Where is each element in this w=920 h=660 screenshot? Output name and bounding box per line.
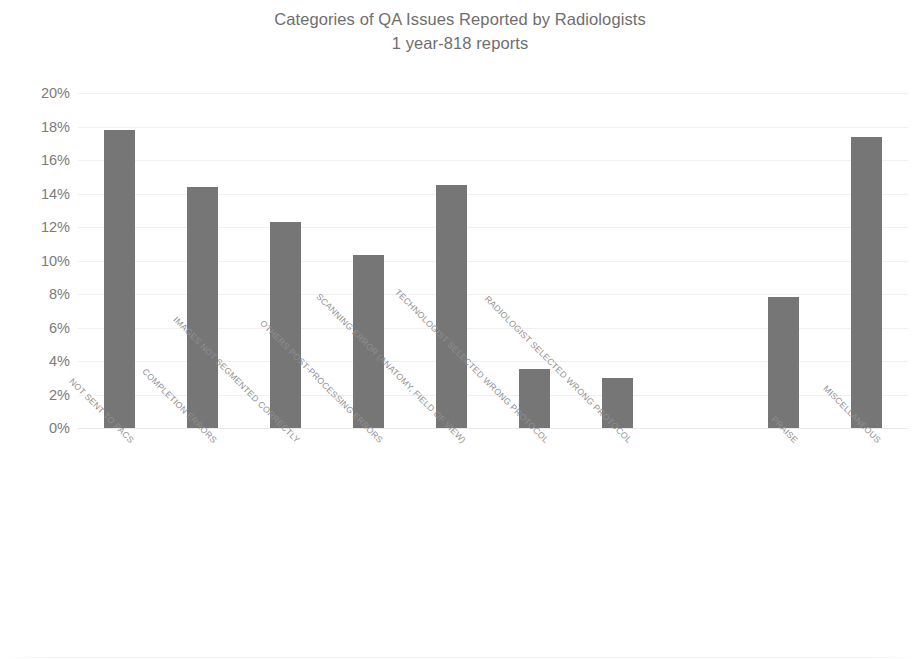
y-axis-tick-label: 6% [24,320,70,336]
y-axis-tick-labels: 20%18%16%14%12%10%8%6%4%2%0% [20,93,70,428]
scan-edge-artifact [0,657,920,658]
bar [104,130,135,428]
bars-container [78,93,908,428]
x-axis-tick-labels: NOT SENT TO PACSCOMPLETION ERRORSIMAGES … [78,432,908,622]
chart-title: Categories of QA Issues Reported by Radi… [0,8,920,32]
y-axis-tick-label: 0% [24,420,70,436]
y-axis-tick-label: 4% [24,353,70,369]
y-axis-tick-label: 12% [24,219,70,235]
y-axis-tick-label: 10% [24,253,70,269]
chart-subtitle: 1 year-818 reports [0,32,920,56]
y-axis-tick-label: 14% [24,186,70,202]
y-axis-tick-label: 16% [24,152,70,168]
bar [436,185,467,428]
chart-title-block: Categories of QA Issues Reported by Radi… [0,8,920,56]
bar [768,297,799,428]
y-axis-tick-label: 18% [24,119,70,135]
bar [270,222,301,428]
bar-chart: Categories of QA Issues Reported by Radi… [0,0,920,660]
y-axis-tick-label: 8% [24,286,70,302]
y-axis-tick-label: 2% [24,387,70,403]
y-axis-tick-label: 20% [24,85,70,101]
bar [851,137,882,428]
bar [187,187,218,428]
